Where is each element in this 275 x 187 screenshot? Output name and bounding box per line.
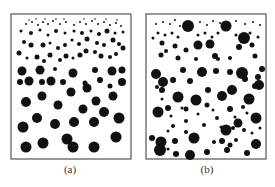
dot [97,32,101,36]
dot [259,24,261,26]
dot [20,30,23,33]
dot [165,105,171,111]
dot [44,18,46,20]
dot [231,126,235,130]
dot [221,21,232,32]
dot [170,115,173,118]
dot [52,20,54,22]
dot [114,52,118,56]
dot [53,67,57,71]
dot [155,85,159,89]
dot [152,37,155,40]
dot [255,74,261,80]
dot [176,56,181,61]
dot [97,23,99,25]
dot [241,105,245,109]
dot [42,21,44,23]
dot [92,97,101,106]
dot [227,106,233,112]
dot [205,87,211,93]
dot [213,68,219,74]
dot [149,135,155,141]
dot [172,138,178,144]
dot [28,19,30,21]
dot [224,147,230,153]
dot [160,41,165,46]
dot [91,20,93,22]
dot [118,78,126,86]
dot [83,81,88,86]
dot [184,130,188,134]
dot [89,142,100,153]
dot [120,25,122,27]
dot [217,91,227,101]
dot [206,24,208,26]
caption-a: (a) [55,163,85,175]
dot [253,54,258,59]
dot [32,113,42,123]
dot [35,55,40,60]
dot [39,79,45,85]
dot [179,25,181,27]
dot [182,20,194,32]
dot [85,23,87,25]
dot [189,133,200,144]
dot [37,24,39,26]
dot [18,67,27,76]
dot [89,117,99,127]
dot [29,43,34,48]
dot [109,92,118,101]
dot [85,37,90,42]
dot [153,107,164,118]
dot [219,22,221,24]
dot [197,34,200,37]
dot [212,140,216,144]
dot [50,119,60,129]
dot [121,46,126,51]
dot [108,55,112,59]
dot [68,142,79,153]
dot [25,23,27,25]
dot [73,24,75,26]
dot [151,69,161,79]
dot [215,116,219,120]
dot [244,23,246,25]
dot [184,107,189,112]
dot [204,149,210,155]
dot [236,44,242,50]
dot [114,113,125,124]
dot [250,43,255,48]
dot [159,53,164,58]
dot [246,112,249,115]
dot [111,38,116,43]
dot [117,42,121,46]
dot [47,77,56,86]
dot [197,67,207,77]
dot [71,39,74,42]
dot [79,21,81,23]
dot [69,69,78,78]
dot [184,119,188,123]
dot [252,83,258,89]
dot [244,94,255,105]
dot [244,150,250,156]
dot [102,43,106,47]
dot [83,18,85,20]
dot [103,21,105,23]
dot [60,79,66,85]
dot [220,126,223,129]
dot [228,143,233,148]
dot [204,32,207,35]
dot [41,43,46,48]
dot [171,32,174,35]
dot [105,29,110,34]
dot [154,144,166,156]
dot [242,76,248,82]
dot [173,44,178,49]
dot [181,107,184,110]
dot [227,69,233,75]
dot [197,113,200,116]
dot [235,20,237,22]
dot [99,107,109,117]
dot [73,30,76,33]
